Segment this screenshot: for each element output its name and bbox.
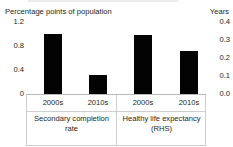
bar-healthylife-2000s [134, 35, 152, 94]
right-axis-tick-2: 0.3 [208, 36, 230, 44]
left-axis-tick-2: 0.8 [2, 42, 24, 50]
right-axis-tick-4: 0.1 [208, 72, 230, 80]
group-label-line2: (RHS) [117, 124, 206, 134]
left-axis-tick-1: 1.2 [2, 18, 24, 26]
right-axis-tick-3: 0.2 [208, 54, 230, 62]
group-label-line1: Healthy life expectancy [117, 114, 206, 124]
chart-container: Percentage points of population Years 1.… [0, 0, 233, 147]
group-label-divider-right [117, 111, 205, 112]
right-axis-title: Years [210, 7, 229, 16]
cropped-title-sliver [28, 0, 178, 2]
category-label-healthylife-2010s: 2010s [166, 98, 212, 107]
left-axis-tick-4: 0 [2, 90, 24, 98]
bar-healthylife-2010s [180, 51, 198, 94]
bar-secondary-2010s [89, 75, 107, 94]
left-axis-title: Percentage points of population [5, 7, 112, 16]
group-label-line1: Secondary completion [27, 114, 116, 124]
right-axis-tick-1: 0.4 [208, 18, 230, 26]
group-label-secondary-completion-rate: Secondary completion rate [27, 114, 116, 133]
category-label-healthylife-2000s: 2000s [120, 98, 166, 107]
category-label-secondary-2000s: 2000s [30, 98, 76, 107]
right-axis-tick-5: 0.0 [208, 90, 230, 98]
category-label-secondary-2010s: 2010s [75, 98, 121, 107]
left-axis-tick-3: 0.4 [2, 66, 24, 74]
group-label-divider-left [27, 111, 116, 112]
group-label-line2: rate [27, 124, 116, 134]
bar-secondary-2000s [44, 34, 62, 94]
group-label-healthy-life-expectancy: Healthy life expectancy (RHS) [117, 114, 206, 133]
